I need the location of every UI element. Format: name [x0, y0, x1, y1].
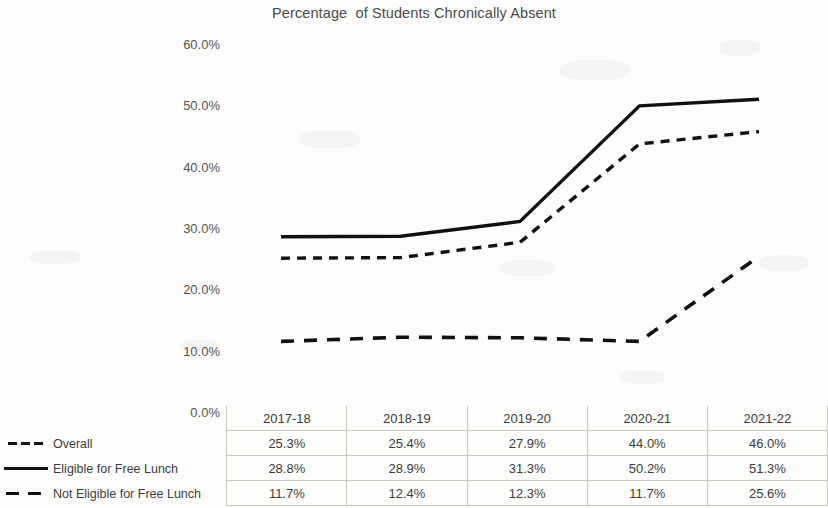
cell-overall-2020-21: 44.0% [587, 431, 707, 456]
legend-label-overall: Overall [53, 436, 93, 450]
table-header-row: 2017-18 2018-19 2019-20 2020-21 2021-22 [0, 406, 828, 431]
series-line-not-eligible-for-free-lunch [281, 256, 759, 341]
cell-not-eligible-2019-20: 12.3% [467, 481, 587, 506]
cell-overall-2019-20: 27.9% [467, 431, 587, 456]
legend-corner-cell [0, 406, 227, 431]
cell-overall-2021-22: 46.0% [707, 431, 827, 456]
legend-swatch-dashed-long-icon [4, 488, 48, 499]
legend-label-not-eligible-for-free-lunch: Not Eligible for Free Lunch [53, 486, 201, 500]
table-row: Not Eligible for Free Lunch 11.7% 12.4% … [0, 481, 828, 506]
data-table: 2017-18 2018-19 2019-20 2020-21 2021-22 … [0, 406, 828, 506]
cell-overall-2018-19: 25.4% [347, 431, 467, 456]
series-lines [281, 99, 759, 341]
table-row: Eligible for Free Lunch 28.8% 28.9% 31.3… [0, 456, 828, 481]
legend-item-overall: Overall [0, 431, 227, 456]
cell-eligible-2019-20: 31.3% [467, 456, 587, 481]
cell-eligible-2021-22: 51.3% [707, 456, 827, 481]
cell-not-eligible-2021-22: 25.6% [707, 481, 827, 506]
cell-eligible-2020-21: 50.2% [587, 456, 707, 481]
cell-not-eligible-2017-18: 11.7% [227, 481, 347, 506]
legend-item-not-eligible-for-free-lunch: Not Eligible for Free Lunch [0, 481, 227, 506]
cell-eligible-2018-19: 28.9% [347, 456, 467, 481]
column-header-2018-19: 2018-19 [347, 406, 467, 431]
column-header-2019-20: 2019-20 [467, 406, 587, 431]
table-row: Overall 25.3% 25.4% 27.9% 44.0% 46.0% [0, 431, 828, 456]
series-line-eligible-for-free-lunch [281, 99, 759, 237]
legend-item-eligible-for-free-lunch: Eligible for Free Lunch [0, 456, 227, 481]
column-header-2020-21: 2020-21 [587, 406, 707, 431]
cell-not-eligible-2018-19: 12.4% [347, 481, 467, 506]
legend-label-eligible-for-free-lunch: Eligible for Free Lunch [53, 461, 178, 475]
column-header-2021-22: 2021-22 [707, 406, 827, 431]
cell-not-eligible-2020-21: 11.7% [587, 481, 707, 506]
plot-area [0, 0, 828, 420]
legend-swatch-dashed-short-icon [4, 438, 48, 449]
series-line-overall [281, 132, 759, 259]
column-header-2017-18: 2017-18 [227, 406, 347, 431]
cell-eligible-2017-18: 28.8% [227, 456, 347, 481]
cell-overall-2017-18: 25.3% [227, 431, 347, 456]
chart-page: Percentage of Students Chronically Absen… [0, 0, 828, 508]
legend-swatch-solid-icon [4, 463, 48, 474]
